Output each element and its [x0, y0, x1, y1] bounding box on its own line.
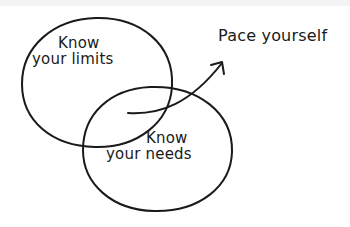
label-know-your-needs: Know your needs: [106, 131, 192, 163]
label-pace-yourself: Pace yourself: [218, 28, 327, 45]
label-know-your-limits: Know your limits: [32, 36, 114, 68]
label-limits-line2: your limits: [32, 52, 114, 68]
label-needs-line2: your needs: [106, 147, 192, 163]
